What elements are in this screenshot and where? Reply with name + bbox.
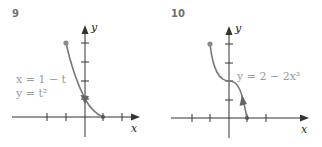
- x-arrow-icon: [131, 114, 140, 121]
- figure-10: 10 y x y = 2 − 2x³: [161, 0, 322, 147]
- y-label: y: [234, 22, 242, 35]
- equation: y = 2 − 2x³: [236, 70, 300, 83]
- x-arrow-icon: [300, 115, 309, 122]
- end-point: [101, 115, 105, 119]
- x-label: x: [131, 122, 138, 135]
- parametric-plot: y x x = 1 − t y = t²: [0, 0, 161, 147]
- equation-line-2: y = t²: [15, 87, 47, 100]
- start-point: [63, 40, 68, 45]
- y-arrow-icon: [82, 25, 89, 34]
- function-plot: y x y = 2 − 2x³: [161, 0, 322, 147]
- equation-line-1: x = 1 − t: [16, 73, 67, 86]
- x-label: x: [301, 123, 308, 136]
- direction-arrow-icon: [240, 95, 248, 106]
- end-point: [245, 116, 249, 120]
- start-point: [207, 41, 212, 46]
- y-label: y: [90, 21, 98, 34]
- y-arrow-icon: [226, 26, 233, 35]
- figure-9: 9 y x x = 1 − t y = t²: [0, 0, 161, 147]
